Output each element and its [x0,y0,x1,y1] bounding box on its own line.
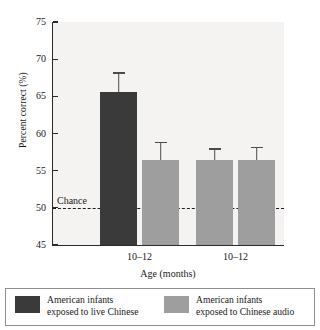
error-bar-cap-group0-live [113,72,125,74]
y-tick-label: 60 [22,127,46,140]
y-tick-label: 55 [22,164,46,177]
bar-group1-audio-b[interactable] [238,160,275,245]
error-bar-group0-audio [160,143,162,159]
y-tick-label: 50 [22,201,46,214]
y-tick-label: 45 [22,238,46,251]
y-tick-label: 70 [22,52,46,65]
legend: American infants exposed to live Chinese… [5,288,315,326]
plot-area: 75 70 65 60 55 50 [52,22,284,246]
legend-label-chinese-audio: American infants exposed to Chinese audi… [196,294,294,317]
bar-group1-audio-a[interactable] [196,160,233,245]
x-tick-label-group1: 10–12 [223,251,248,262]
y-tick-label: 75 [22,15,46,28]
plot-region: Percent correct (%) 75 70 65 60 55 [0,0,320,280]
x-axis-title: Age (months) [52,268,284,279]
error-bar-group1-audio-b [256,148,258,160]
legend-label-line1: American infants [47,294,113,305]
y-tick-mark [53,21,58,22]
error-bar-group0-live [118,74,120,92]
error-bar-cap-group1-audio-a [209,148,221,150]
bar-chart-figure: Percent correct (%) 75 70 65 60 55 [0,0,320,330]
y-tick-mark [53,170,58,171]
bar-group0-live[interactable] [100,92,137,245]
legend-swatch-light [164,296,189,313]
y-tick-mark [53,96,58,97]
legend-label-live-chinese: American infants exposed to live Chinese [47,294,138,317]
y-tick-mark [53,133,58,134]
error-bar-group1-audio-a [214,150,216,160]
legend-label-line2: exposed to Chinese audio [196,306,294,317]
chance-label: Chance [57,195,87,206]
y-tick-mark [53,59,58,60]
y-tick-label: 65 [22,89,46,102]
legend-label-line1: American infants [196,294,262,305]
x-tick-label-group0: 10–12 [127,251,152,262]
y-tick-mark [53,244,58,245]
error-bar-cap-group1-audio-b [251,147,263,149]
legend-label-line2: exposed to live Chinese [47,306,138,317]
bar-group0-audio[interactable] [142,160,179,245]
error-bar-cap-group0-audio [155,142,167,144]
legend-item-live-chinese: American infants exposed to live Chinese [15,294,138,317]
legend-item-chinese-audio: American infants exposed to Chinese audi… [164,294,294,317]
legend-swatch-dark [15,296,40,313]
